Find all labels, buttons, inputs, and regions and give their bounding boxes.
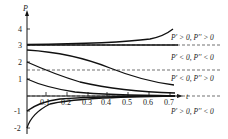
phase-chart: P 4 3 2 1 -1 -2 t 0.1 0.2 0.3 0.4 0.5 0.…	[0, 0, 228, 139]
x-tick-0.4: 0.4	[101, 98, 111, 107]
y-tick-3: 3	[18, 41, 22, 50]
y-tick-1: 1	[18, 75, 22, 84]
region-label-4: P' > 0, P'' < 0	[170, 107, 214, 116]
x-tick-0.6: 0.6	[143, 98, 153, 107]
region-label-3: P' < 0, P'' > 0	[170, 74, 214, 83]
x-tick-0.7: 0.7	[164, 98, 174, 107]
curve-start-2	[27, 62, 175, 93]
x-axis-label: t	[186, 92, 189, 101]
y-tick-neg1: -1	[14, 107, 21, 116]
region-label-2: P' < 0, P'' < 0	[170, 53, 214, 62]
y-axis-label: P	[22, 4, 28, 13]
y-tick-neg2: -2	[14, 124, 21, 133]
curve-above-3	[27, 29, 173, 45]
x-tick-0.5: 0.5	[122, 98, 132, 107]
y-tick-4: 4	[18, 25, 22, 34]
region-label-1: P' > 0, P'' > 0	[170, 33, 214, 42]
curve-start-2.7	[27, 50, 174, 85]
y-tick-2: 2	[18, 58, 22, 67]
